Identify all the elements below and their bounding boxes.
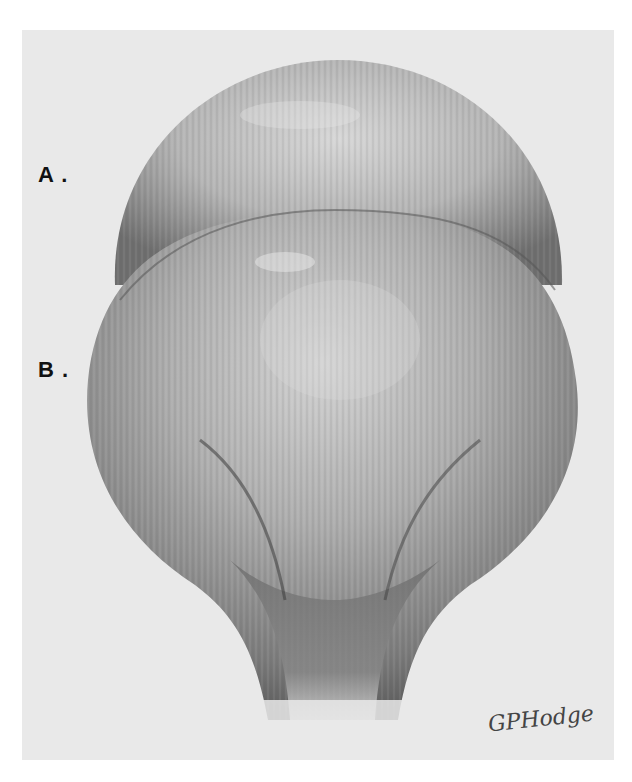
lobe-b [87, 210, 578, 740]
figure-frame: A . B . GPHodge [0, 0, 632, 782]
label-b: B . [38, 357, 69, 383]
bulb-illustration [0, 0, 632, 782]
label-a: A . [38, 162, 68, 188]
